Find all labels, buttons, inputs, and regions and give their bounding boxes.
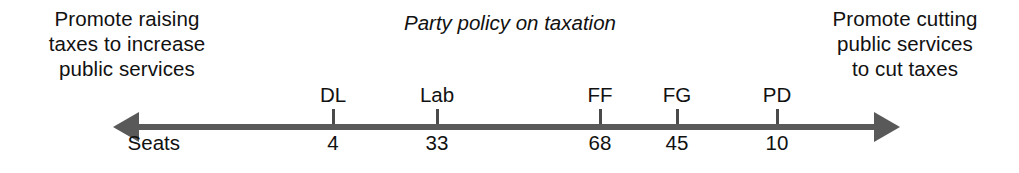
seats-row-label: Seats	[50, 131, 180, 154]
marker-lab-label: Lab	[377, 84, 497, 106]
marker-pd-value: 10	[717, 131, 837, 154]
arrow-right-icon	[874, 112, 900, 142]
marker-ff-tick	[599, 109, 602, 124]
marker-dl-tick	[332, 109, 335, 124]
marker-fg-tick	[676, 109, 679, 124]
marker-lab: Lab	[377, 84, 497, 124]
marker-pd: PD	[717, 84, 837, 124]
marker-dl-value: 4	[273, 131, 393, 154]
marker-pd-tick	[776, 109, 779, 124]
axis-line	[131, 124, 885, 130]
party-policy-taxation-figure: Promote raising taxes to increase public…	[0, 0, 1019, 173]
marker-pd-label: PD	[717, 84, 837, 106]
marker-dl-label: DL	[273, 84, 393, 106]
marker-dl: DL	[273, 84, 393, 124]
marker-lab-value: 33	[377, 131, 497, 154]
marker-lab-tick	[436, 109, 439, 124]
axis-area: Seats DL Lab FF FG PD 4 33 68 45 10	[0, 0, 1019, 173]
